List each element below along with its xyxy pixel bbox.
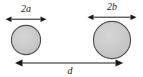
separation-label: d [68,65,74,76]
left-diameter-label: 2a [21,3,31,14]
right-diameter-label: 2b [107,1,117,12]
right-circle [93,21,130,58]
figure-canvas: 2a 2b d [0,0,143,77]
diagram-svg: 2a 2b d [0,0,143,77]
left-circle [11,25,40,54]
